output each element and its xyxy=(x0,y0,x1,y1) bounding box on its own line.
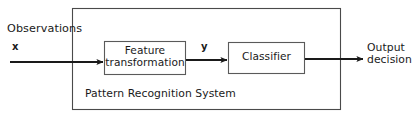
feature-transformation-label-line2: transformation xyxy=(105,56,184,68)
input-signal-label: x xyxy=(12,41,18,52)
system-caption-label: Pattern Recognition System xyxy=(85,88,236,100)
classifier-label: Classifier xyxy=(228,51,305,63)
output-decision-line1: Output xyxy=(367,41,405,54)
output-decision-line2: decision xyxy=(367,54,412,66)
output-decision-label: Output decision xyxy=(367,42,412,66)
observations-label: Observations xyxy=(7,23,82,36)
feature-transformation-label-line1: Feature xyxy=(125,44,165,56)
intermediate-signal-label: y xyxy=(201,41,208,52)
feature-transformation-label: Feature transformation xyxy=(104,45,186,69)
